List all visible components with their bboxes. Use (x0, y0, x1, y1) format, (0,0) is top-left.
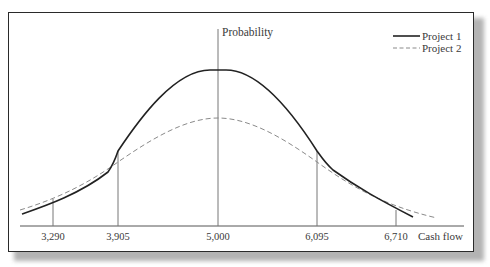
tick-label-3290: 3,290 (41, 231, 65, 242)
chart-canvas: Probability 3,290 3,905 5,000 6,095 6,71… (0, 0, 490, 267)
y-axis-label: Probability (222, 26, 273, 39)
legend-label-project-2: Project 2 (422, 42, 461, 54)
tick-label-6095: 6,095 (305, 231, 329, 242)
tick-label-5000: 5,000 (206, 231, 230, 242)
project-2-curve (20, 118, 437, 218)
legend: Project 1 Project 2 (393, 30, 461, 54)
x-axis-label: Cash flow (418, 230, 463, 242)
tick-label-3905: 3,905 (106, 231, 130, 242)
tick-label-6710: 6,710 (384, 231, 408, 242)
legend-label-project-1: Project 1 (422, 30, 461, 42)
